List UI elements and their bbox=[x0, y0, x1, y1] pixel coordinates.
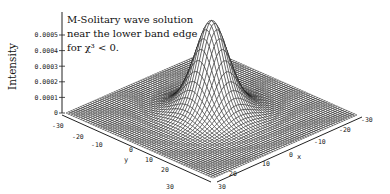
x-tick-label: -10 bbox=[314, 138, 326, 146]
y-tick-label: -10 bbox=[91, 141, 103, 149]
x-tick-label: 10 bbox=[262, 160, 270, 168]
z-tick-label: 0 bbox=[54, 109, 58, 117]
z-axis: 00.00010.00020.00030.00040.0005 bbox=[35, 12, 65, 117]
title-line-3: for χ³ < 0. bbox=[67, 42, 119, 53]
y-tick-label: 10 bbox=[145, 156, 153, 164]
y-tick-label: -30 bbox=[52, 122, 64, 130]
chart-title: M-Solitary wave solution near the lower … bbox=[67, 14, 198, 53]
x-tick-label: 30 bbox=[218, 183, 226, 191]
y-tick-label: -20 bbox=[72, 133, 84, 141]
y-tick-label: 0 bbox=[129, 146, 133, 154]
z-tick-label: 0.0003 bbox=[35, 63, 59, 71]
x-tick-label: 0 bbox=[289, 151, 293, 159]
z-tick-label: 0.0005 bbox=[35, 31, 59, 39]
z-axis-label: Intensity bbox=[6, 43, 18, 90]
title-line-1: M-Solitary wave solution bbox=[67, 14, 194, 25]
title-line-2: near the lower band edge bbox=[67, 28, 198, 39]
surface-plot: 00.00010.00020.00030.00040.0005 Intensit… bbox=[0, 0, 390, 194]
y-tick-label: 20 bbox=[161, 166, 169, 174]
z-tick-label: 0.0001 bbox=[35, 94, 59, 102]
y-tick-label: 30 bbox=[166, 183, 174, 191]
z-tick-label: 0.0002 bbox=[35, 78, 59, 86]
y-axis-label: y bbox=[124, 156, 128, 164]
z-tick-label: 0.0004 bbox=[35, 47, 59, 55]
x-axis-label: x bbox=[297, 153, 301, 161]
x-tick-label: -20 bbox=[339, 126, 351, 134]
x-tick-label: 20 bbox=[229, 170, 237, 178]
x-tick-label: -30 bbox=[361, 116, 373, 124]
